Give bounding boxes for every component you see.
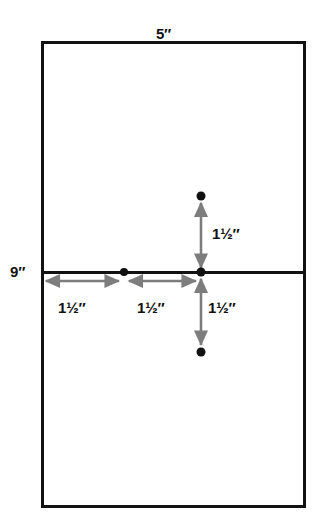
sheet-rectangle — [41, 41, 306, 508]
horizontal-left-dimension-label: 1½″ — [58, 300, 85, 315]
horizontal-right-dimension-label: 1½″ — [137, 300, 164, 315]
center-point-dot — [197, 268, 206, 277]
left-point-dot — [120, 268, 128, 276]
top-width-label: 5″ — [0, 26, 327, 41]
horizontal-fold-line — [41, 271, 306, 274]
left-height-label: 9″ — [10, 264, 25, 279]
vertical-bottom-dimension-label: 1½″ — [208, 300, 235, 315]
diagram-canvas: 5″ 9″ — [0, 0, 327, 531]
top-point-dot — [197, 192, 206, 201]
bottom-point-dot — [197, 348, 206, 357]
vertical-top-dimension-label: 1½″ — [212, 226, 239, 241]
